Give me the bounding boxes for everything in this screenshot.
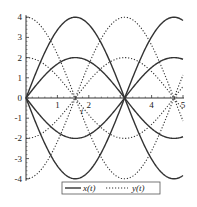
y-tick-label: 3	[18, 32, 23, 42]
y-tick-label: 2	[18, 53, 23, 63]
y-tick-label: 0	[18, 93, 23, 103]
y-tick-label: 4	[18, 12, 23, 22]
y-tick-label: 1	[18, 73, 23, 83]
legend: x(t)y(t)	[62, 182, 160, 194]
legend-label-x: x(t)	[82, 183, 96, 193]
y-tick-label: -3	[15, 154, 23, 164]
axes: -4-3-2-1012341245t	[15, 12, 186, 184]
y-tick-label: -2	[15, 133, 23, 143]
y-tick-label: -4	[15, 174, 23, 184]
x-tick-label: 4	[149, 100, 154, 110]
x-tick-label: 5	[181, 100, 186, 110]
x-tick-label: 1	[55, 100, 60, 110]
parametric-line-chart: -4-3-2-1012341245t x(t)y(t)	[0, 0, 197, 207]
x-tick-label: 2	[87, 100, 92, 110]
legend-label-y: y(t)	[131, 183, 145, 193]
y-tick-label: -1	[15, 113, 23, 123]
